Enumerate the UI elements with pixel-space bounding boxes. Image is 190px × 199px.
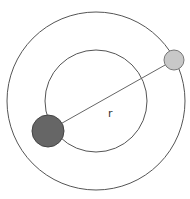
outer-orbit	[7, 12, 185, 190]
light-body	[164, 50, 184, 70]
diagram-canvas: r	[0, 0, 190, 199]
separation-label: r	[108, 107, 113, 120]
separation-line	[48, 60, 174, 131]
orbit-diagram: r	[0, 0, 190, 199]
dark-body	[32, 115, 64, 147]
